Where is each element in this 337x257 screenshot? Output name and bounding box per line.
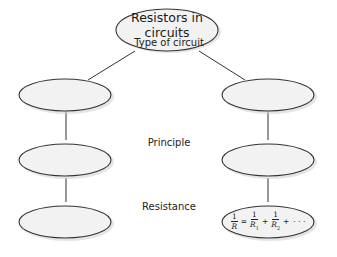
fraction-lhs: 1 R bbox=[231, 212, 238, 231]
root-node-text: Resistors in circuits bbox=[116, 10, 218, 40]
root-line-1: Resistors in bbox=[116, 10, 218, 25]
equals-sign: = bbox=[241, 217, 247, 226]
row-label-resistance: Resistance bbox=[126, 201, 212, 212]
fraction-term-2: 1 R2 bbox=[271, 210, 280, 233]
plus-sign: + bbox=[262, 217, 268, 226]
left-node-principle bbox=[19, 144, 111, 176]
parallel-resistance-formula: 1 R = 1 R1 + 1 R2 + · · · bbox=[230, 208, 330, 234]
right-node-type bbox=[222, 79, 314, 111]
left-node-resistance bbox=[19, 206, 111, 238]
connector-root-left bbox=[88, 51, 135, 80]
right-node-principle bbox=[222, 144, 314, 176]
left-node-type bbox=[19, 79, 111, 111]
row-label-type-of-circuit: Type of circuit bbox=[126, 37, 212, 48]
connector-root-right bbox=[199, 51, 245, 80]
fraction-term-1: 1 R1 bbox=[250, 210, 259, 233]
ellipsis: · · · bbox=[293, 217, 305, 226]
plus-sign: + bbox=[283, 217, 289, 226]
row-label-principle: Principle bbox=[126, 137, 212, 148]
